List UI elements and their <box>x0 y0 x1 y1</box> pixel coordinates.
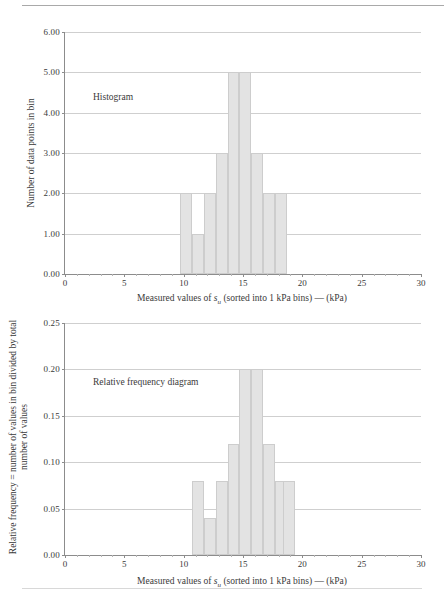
histogram-xtick-label: 10 <box>179 278 188 288</box>
relative-frequency-figure: Relative frequency diagram 0.000.050.100… <box>0 305 444 590</box>
histogram-figure: Histogram 0.001.002.003.004.005.006.0005… <box>0 14 444 294</box>
histogram-xminor-mark <box>112 274 113 276</box>
histogram-xminor-mark <box>160 274 161 276</box>
relative-frequency-xminor-mark <box>112 555 113 557</box>
relative-frequency-bar <box>283 481 295 555</box>
histogram-xtick-mark <box>124 274 125 277</box>
histogram-ytick-label: 3.00 <box>43 148 60 158</box>
relfreq-xaxis-title-after: (sorted into 1 kPa bins) — (kPa) <box>221 576 347 586</box>
histogram-xminor-mark <box>409 274 410 276</box>
histogram-xminor-mark <box>385 274 386 276</box>
histogram-xaxis-variable: su <box>214 293 221 303</box>
histogram-bar <box>275 193 287 274</box>
histogram-xtick-mark <box>184 274 185 277</box>
relative-frequency-xminor-mark <box>409 555 410 557</box>
relative-frequency-ytick-mark <box>62 462 65 463</box>
histogram-bar <box>216 153 228 274</box>
relative-frequency-yaxis-title: Relative frequency = number of values in… <box>8 319 30 555</box>
relative-frequency-xtick-label: 0 <box>63 559 68 569</box>
histogram-xtick-label: 15 <box>239 278 248 288</box>
relative-frequency-bar <box>228 444 240 555</box>
relative-frequency-ytick-mark <box>62 369 65 370</box>
relative-frequency-xminor-mark <box>101 555 102 557</box>
relative-frequency-bar <box>251 369 263 555</box>
histogram-ytick-label: 2.00 <box>43 188 60 198</box>
histogram-ytick-label: 1.00 <box>43 229 60 239</box>
page-top-rule <box>22 5 444 6</box>
histogram-xtick-mark <box>421 274 422 277</box>
relative-frequency-xminor-mark <box>290 555 291 557</box>
histogram-xminor-mark <box>207 274 208 276</box>
histogram-ytick-label: 4.00 <box>43 108 60 118</box>
histogram-xminor-mark <box>255 274 256 276</box>
relative-frequency-ytick-mark <box>62 416 65 417</box>
relative-frequency-xminor-mark <box>172 555 173 557</box>
histogram-xaxis-title-before: Measured values of <box>137 293 214 303</box>
histogram-xtick-label: 25 <box>357 278 366 288</box>
relative-frequency-xtick-mark <box>124 555 125 558</box>
relative-frequency-ytick-label: 0.00 <box>43 550 60 560</box>
relative-frequency-xtick-label: 25 <box>357 559 366 569</box>
relative-frequency-xminor-mark <box>385 555 386 557</box>
relative-frequency-xminor-mark <box>136 555 137 557</box>
relative-frequency-gridline <box>65 323 421 324</box>
histogram-ytick-mark <box>62 234 65 235</box>
histogram-xtick-mark <box>362 274 363 277</box>
figure-page: Histogram 0.001.002.003.004.005.006.0005… <box>0 0 444 599</box>
relative-frequency-xtick-mark <box>243 555 244 558</box>
relative-frequency-xtick-label: 15 <box>239 559 248 569</box>
relative-frequency-ytick-label: 0.10 <box>43 457 60 467</box>
relative-frequency-xminor-mark <box>326 555 327 557</box>
histogram-annotation: Histogram <box>93 92 133 102</box>
relative-frequency-ytick-mark <box>62 509 65 510</box>
histogram-yaxis-title: Number of data points in bin <box>26 32 36 274</box>
relative-frequency-xminor-mark <box>374 555 375 557</box>
relative-frequency-xtick-mark <box>302 555 303 558</box>
histogram-bar <box>180 193 192 274</box>
relative-frequency-xminor-mark <box>314 555 315 557</box>
histogram-xminor-mark <box>374 274 375 276</box>
relative-frequency-xminor-mark <box>279 555 280 557</box>
histogram-xminor-mark <box>101 274 102 276</box>
histogram-xtick-mark <box>302 274 303 277</box>
relative-frequency-annotation: Relative frequency diagram <box>93 377 199 387</box>
relative-frequency-ytick-mark <box>62 323 65 324</box>
histogram-xminor-mark <box>148 274 149 276</box>
relative-frequency-plot-area: Relative frequency diagram 0.000.050.100… <box>64 323 421 556</box>
relative-frequency-xminor-mark <box>350 555 351 557</box>
histogram-gridline <box>65 32 421 33</box>
relative-frequency-xminor-mark <box>77 555 78 557</box>
relative-frequency-xminor-mark <box>255 555 256 557</box>
histogram-bar <box>263 193 275 274</box>
relative-frequency-bar <box>239 369 251 555</box>
relative-frequency-ytick-label: 0.25 <box>43 318 60 328</box>
relative-frequency-xminor-mark <box>219 555 220 557</box>
histogram-xminor-mark <box>267 274 268 276</box>
relative-frequency-ytick-label: 0.15 <box>43 411 60 421</box>
histogram-plot-area: Histogram 0.001.002.003.004.005.006.0005… <box>64 32 421 275</box>
histogram-ytick-mark <box>62 113 65 114</box>
relative-frequency-xtick-mark <box>421 555 422 558</box>
histogram-xminor-mark <box>77 274 78 276</box>
histogram-xminor-mark <box>314 274 315 276</box>
relative-frequency-xminor-mark <box>231 555 232 557</box>
histogram-xminor-mark <box>136 274 137 276</box>
relfreq-yaxis-title-line1: Relative frequency = number of values in… <box>8 319 19 555</box>
relative-frequency-bar <box>192 481 204 555</box>
histogram-xminor-mark <box>290 274 291 276</box>
histogram-xminor-mark <box>279 274 280 276</box>
relative-frequency-xtick-label: 5 <box>122 559 127 569</box>
histogram-ytick-label: 5.00 <box>43 67 60 77</box>
relative-frequency-xtick-label: 20 <box>298 559 307 569</box>
relfreq-xaxis-variable: su <box>214 576 221 586</box>
relative-frequency-bar <box>204 518 216 555</box>
relative-frequency-xtick-label: 30 <box>417 559 426 569</box>
relative-frequency-bar <box>216 481 228 555</box>
histogram-xminor-mark <box>172 274 173 276</box>
histogram-xminor-mark <box>196 274 197 276</box>
relative-frequency-xminor-mark <box>207 555 208 557</box>
histogram-xtick-mark <box>243 274 244 277</box>
relative-frequency-xaxis-title: Measured values of su (sorted into 1 kPa… <box>64 576 420 589</box>
histogram-ytick-mark <box>62 193 65 194</box>
histogram-xminor-mark <box>326 274 327 276</box>
